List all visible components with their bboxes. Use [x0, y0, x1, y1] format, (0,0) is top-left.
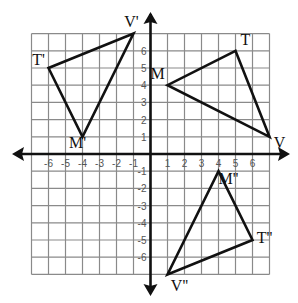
- y-tick-label: 3: [141, 97, 147, 108]
- vertex-label: T: [241, 31, 251, 48]
- axes: [12, 12, 290, 296]
- vertex-label: T': [32, 51, 45, 68]
- y-tick-label: -1: [138, 166, 147, 177]
- y-tick-label: -5: [138, 235, 147, 246]
- coordinate-plane: -6-5-4-3-2-1123456 -6-5-4-3-2-1123456 TM…: [0, 0, 298, 303]
- x-tick-label: -4: [78, 158, 87, 169]
- x-tick-label: 5: [233, 158, 239, 169]
- vertex-label: V'': [171, 277, 188, 294]
- x-tick-label: -3: [95, 158, 104, 169]
- y-tick-label: 1: [141, 132, 147, 143]
- x-tick-label: 1: [165, 158, 171, 169]
- vertex-label: M': [69, 134, 86, 151]
- x-tick-label: 4: [216, 158, 222, 169]
- vertex-label: M'': [219, 170, 239, 187]
- x-tick-label: 2: [182, 158, 188, 169]
- vertex-label: V': [124, 13, 139, 30]
- x-tick-label: -6: [44, 158, 53, 169]
- y-tick-label: -2: [138, 183, 147, 194]
- y-tick-label: 2: [141, 115, 147, 126]
- y-tick-label: 4: [141, 80, 147, 91]
- y-tick-label: 6: [141, 46, 147, 57]
- vertex-label: V: [274, 134, 286, 151]
- y-tick-label: -6: [138, 252, 147, 263]
- vertex-label: T'': [257, 229, 273, 246]
- x-tick-label: -2: [112, 158, 121, 169]
- x-tick-label: -5: [61, 158, 70, 169]
- y-tick-label: 5: [141, 63, 147, 74]
- y-tick-label: -4: [138, 218, 147, 229]
- x-tick-label: 6: [250, 158, 256, 169]
- vertex-label: M: [150, 65, 164, 82]
- x-tick-label: 3: [199, 158, 205, 169]
- y-tick-label: -3: [138, 201, 147, 212]
